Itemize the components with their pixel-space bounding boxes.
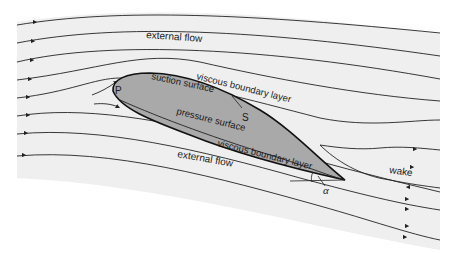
airfoil-flow-diagram: external flow suction surface viscous bo… — [0, 0, 453, 253]
label-stagnation-point: P — [115, 85, 122, 96]
label-angle-alpha: α — [323, 184, 329, 196]
